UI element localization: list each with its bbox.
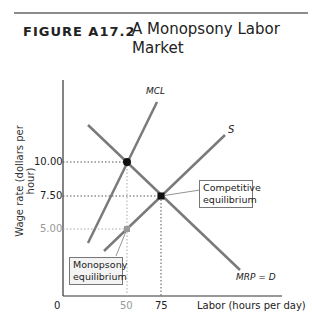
origin-label: 0 (54, 300, 60, 311)
mcl-label: MCL (146, 86, 165, 96)
y-axis-label: Wage rate (dollars per hour) (14, 116, 36, 246)
monopsony-equilibrium-box: Monopsony equilibrium (69, 257, 123, 285)
x-axis-label: Labor (hours per day) (197, 300, 306, 311)
mrp-label: MRP = D (236, 272, 276, 282)
ytick-10: 10.00 (34, 156, 63, 167)
competitive-equilibrium-box: Competitive equilibrium (199, 180, 253, 208)
xtick-75: 75 (155, 300, 168, 311)
xtick-50: 50 (120, 300, 133, 311)
ytick-7-5: 7.50 (40, 190, 62, 201)
ytick-5: 5.00 (40, 223, 62, 234)
s-label: S (228, 124, 234, 135)
